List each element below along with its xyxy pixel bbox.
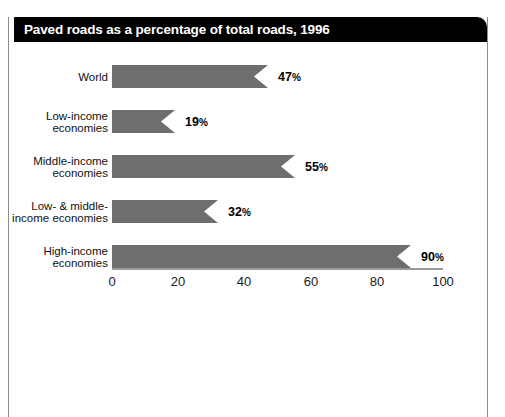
x-axis-tick-label: 100 [432, 274, 454, 289]
bar-value-number: 32 [228, 205, 242, 219]
bar-value-label: 55% [305, 160, 328, 174]
x-axis-tick-label: 20 [171, 274, 185, 289]
bar-value-number: 90 [421, 250, 435, 264]
category-label: Low- & middle- income economies [0, 199, 108, 224]
chart-row: World 47% [0, 65, 505, 88]
bar-value-label: 90% [421, 250, 444, 264]
bar-container: 32% [112, 200, 218, 223]
bar [112, 110, 175, 133]
chart-row: Middle-income economies 55% [0, 155, 505, 178]
percent-sign: % [242, 207, 251, 218]
bar [112, 155, 295, 178]
category-label: World [0, 70, 108, 83]
chart-row: High-income economies 90% [0, 245, 505, 268]
bar-container: 55% [112, 155, 295, 178]
bar [112, 200, 218, 223]
chart-row: Low-income economies 19% [0, 110, 505, 133]
bar-value-label: 47% [278, 70, 301, 84]
x-axis-tick-label: 80 [370, 274, 384, 289]
bar-value-number: 47 [278, 70, 292, 84]
bar-value-label: 19% [185, 115, 208, 129]
bar [112, 65, 268, 88]
bar-container: 19% [112, 110, 175, 133]
percent-sign: % [292, 72, 301, 83]
category-label: Middle-income economies [0, 154, 108, 179]
x-axis-tick-label: 40 [237, 274, 251, 289]
x-axis-tick-label: 60 [304, 274, 318, 289]
percent-sign: % [319, 162, 328, 173]
x-axis-line [112, 268, 443, 270]
chart-row: Low- & middle- income economies 32% [0, 200, 505, 223]
percent-sign: % [435, 252, 444, 263]
bar-value-number: 55 [305, 160, 319, 174]
category-label: Low-income economies [0, 109, 108, 134]
bar-container: 47% [112, 65, 268, 88]
category-label: High-income economies [0, 244, 108, 269]
bar-container: 90% [112, 245, 411, 268]
bar [112, 245, 411, 268]
bar-value-label: 32% [228, 205, 251, 219]
bar-value-number: 19 [185, 115, 199, 129]
x-axis-tick-label: 0 [108, 274, 115, 289]
percent-sign: % [199, 117, 208, 128]
